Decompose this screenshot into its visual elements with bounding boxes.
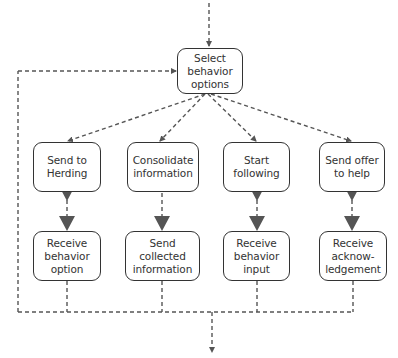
node-label: Select behavior options [187,52,232,91]
node-receive-acknowledgement: Receive acknow- ledgement [319,231,387,281]
node-start-following: Start following [223,142,290,192]
triangle-arrowheads [59,186,360,231]
node-label: Send collected information [133,237,193,276]
edge-to-send-offer [211,94,351,141]
node-label: Start following [233,154,279,180]
arrowhead-icon [249,216,265,231]
node-label: Receive acknow- ledgement [325,237,381,276]
node-label: Receive behavior option [44,237,89,276]
arrowhead-icon [344,216,360,231]
flowchart-diagram: Select behavior options Send to Herding … [0,0,398,358]
node-receive-behavior-option: Receive behavior option [33,231,101,281]
arrowhead-icon [154,216,170,231]
node-label: Consolidate information [133,154,194,180]
node-send-collected-information: Send collected information [125,231,200,281]
node-select-behavior-options: Select behavior options [177,48,243,94]
node-send-to-herding: Send to Herding [33,142,101,192]
node-label: Send offer to help [325,154,378,180]
node-send-offer-to-help: Send offer to help [319,142,385,192]
node-label: Receive behavior input [234,237,279,276]
node-label: Send to Herding [47,154,88,180]
node-receive-behavior-input: Receive behavior input [223,231,290,281]
arrowhead-icon [59,216,75,231]
node-consolidate-information: Consolidate information [127,142,199,192]
edge-to-send-to-herding [68,94,205,141]
